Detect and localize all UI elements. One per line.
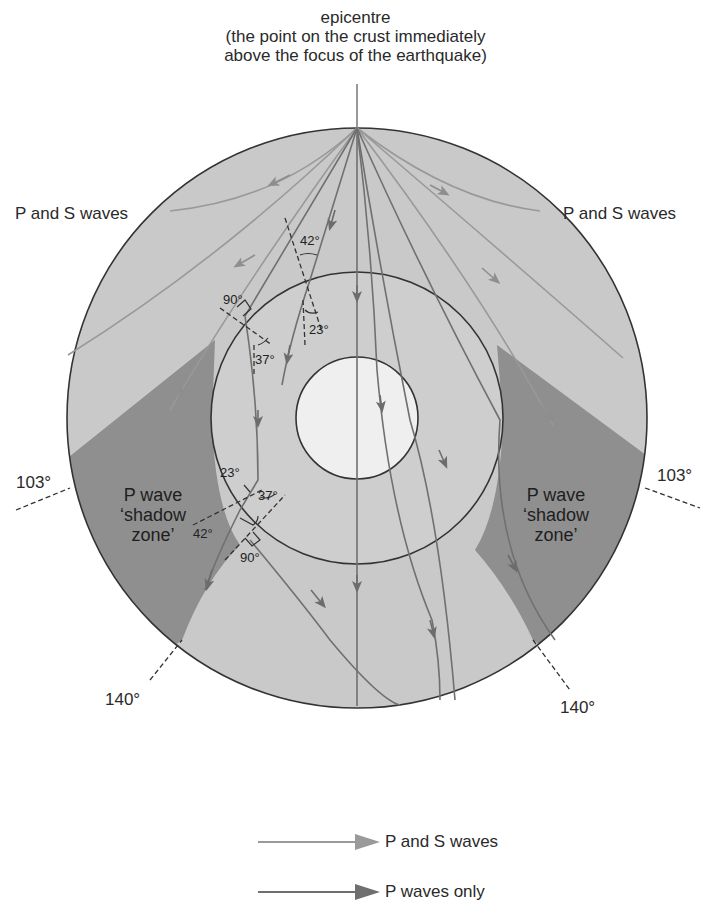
shadow-zone-label-left: P wave ‘shadow zone’ xyxy=(113,485,193,545)
shadow-zone-label-right: P wave ‘shadow zone’ xyxy=(516,485,596,545)
earth-cross-section xyxy=(0,0,711,920)
angle-label-37-left: 37° xyxy=(255,352,275,367)
angle-label-23-upper: 23° xyxy=(309,322,329,337)
angle-label-42-lower: 42° xyxy=(193,526,213,541)
angle-140-right: 140° xyxy=(560,698,595,717)
angle-label-37-lower: 37° xyxy=(258,488,278,503)
legend-item-ps-waves: P and S waves xyxy=(255,830,555,854)
legend-label-p-waves: P waves only xyxy=(385,882,485,902)
ps-waves-label-left: P and S waves xyxy=(15,204,128,223)
legend-label-ps-waves: P and S waves xyxy=(385,832,498,852)
ps-waves-label-right: P and S waves xyxy=(563,204,676,223)
angle-103-right: 103° xyxy=(657,466,692,485)
legend-arrow-ps-icon xyxy=(255,834,380,850)
legend-item-p-waves: P waves only xyxy=(255,880,555,904)
angle-103-left: 103° xyxy=(16,473,51,492)
angle-140-left: 140° xyxy=(105,690,140,709)
angle-label-90-lower: 90° xyxy=(240,550,260,565)
legend-arrow-p-icon xyxy=(255,884,380,900)
angle-label-90-left: 90° xyxy=(223,292,243,307)
angle-label-42-upper: 42° xyxy=(300,233,320,248)
angle-label-23-lower: 23° xyxy=(220,465,240,480)
